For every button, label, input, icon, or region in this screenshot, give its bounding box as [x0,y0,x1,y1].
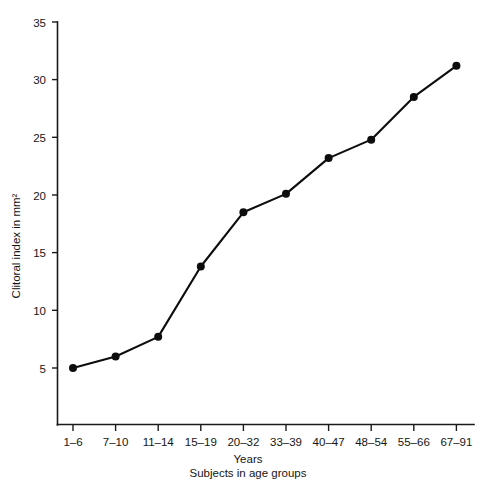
data-point [112,352,120,360]
x-tick-label: 67–91 [440,436,472,448]
line-chart: 35 30 25 20 15 10 5 Clitoral index in mm… [0,0,481,482]
x-tick-label: 20–32 [227,436,259,448]
x-tick-label: 15–19 [185,436,217,448]
y-tick-label: 5 [40,363,46,375]
y-tick-label: 20 [33,190,46,202]
y-tick-label: 15 [33,247,46,259]
x-tick-label: 40–47 [313,436,345,448]
x-tick-label: 1–6 [63,436,82,448]
chart-background [0,0,481,482]
y-tick-label: 10 [33,305,46,317]
x-axis-subtitle: Subjects in age groups [190,467,307,479]
data-point [367,136,375,144]
x-tick-label: 55–66 [398,436,430,448]
data-point [452,62,460,70]
y-axis-title: Clitoral index in mm² [10,193,22,298]
data-point [197,263,205,271]
data-point [239,208,247,216]
x-tick-label: 7–10 [103,436,129,448]
y-tick-label: 30 [33,74,46,86]
data-point [325,154,333,162]
chart-canvas: 35 30 25 20 15 10 5 Clitoral index in mm… [0,0,481,482]
x-tick-label: 48–54 [355,436,388,448]
data-point [282,190,290,198]
y-tick-label: 35 [33,17,46,29]
y-tick-label: 25 [33,132,46,144]
x-axis-title: Years [234,453,263,465]
x-tick-label: 11–14 [143,436,175,448]
x-tick-label: 33–39 [270,436,302,448]
data-point [154,333,162,341]
data-point [69,364,77,372]
data-point [410,93,418,101]
